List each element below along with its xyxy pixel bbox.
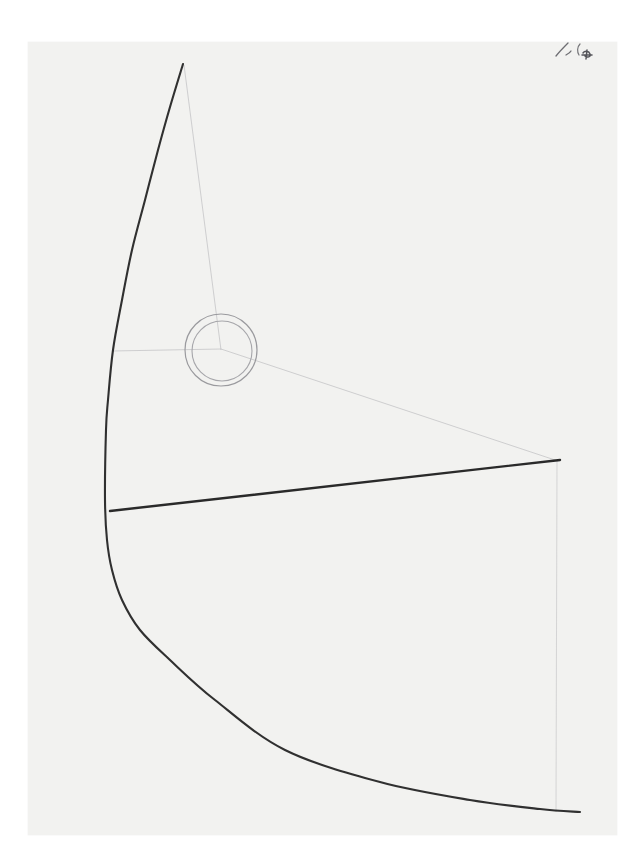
artwork-canvas: A minimalist drawing on a lightly toned … xyxy=(0,0,641,857)
corner-pencil-mark-icon xyxy=(552,40,600,66)
paper-sheet xyxy=(28,42,617,835)
